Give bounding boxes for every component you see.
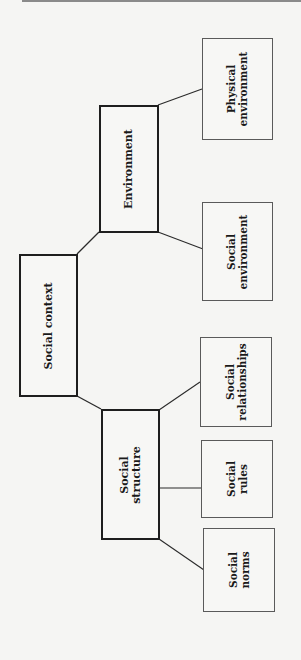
node-social-environment: Social environment [202, 202, 273, 301]
node-label: Social structure [119, 446, 143, 504]
connector-structure-norms [159, 539, 204, 570]
node-label: Social context [43, 282, 55, 369]
node-label: Social environment [226, 214, 250, 289]
node-label: Social norms [227, 551, 251, 588]
node-social-context: Social context [19, 254, 78, 397]
node-label: Social relationships [224, 343, 248, 420]
connector-environment-social [158, 232, 203, 249]
connector-structure-relationships [159, 382, 200, 410]
node-label: Physical environment [226, 52, 250, 127]
node-environment: Environment [99, 105, 159, 233]
node-social-structure: Social structure [101, 409, 160, 540]
connector-context-environment [77, 232, 99, 254]
node-label: Environment [123, 129, 135, 209]
node-physical-environment: Physical environment [202, 38, 273, 140]
connector-context-structure [77, 396, 101, 409]
connector-environment-physical [158, 89, 202, 105]
node-social-relationships: Social relationships [200, 337, 272, 427]
node-social-norms: Social norms [203, 528, 275, 612]
diagram-canvas: Social context Environment Physical envi… [0, 0, 301, 660]
node-label: Social rules [225, 461, 249, 497]
node-social-rules: Social rules [201, 440, 273, 518]
